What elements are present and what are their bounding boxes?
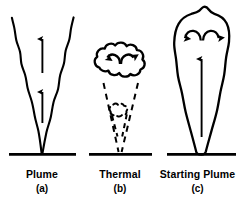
caption-starting-plume-title: Starting Plume — [160, 168, 236, 181]
thermal-cone-right — [122, 83, 138, 152]
thermal-inner-ghost-stem-right — [122, 114, 127, 136]
panel-plume — [9, 17, 76, 154]
caption-plume-title: Plume — [26, 168, 58, 181]
caption-starting-plume: Starting Plume (c) — [156, 168, 239, 195]
caption-thermal-sublabel: (b) — [114, 182, 127, 195]
caption-plume-sublabel: (a) — [36, 182, 48, 195]
thermal-inner-ghost-head — [109, 104, 127, 117]
panel-starting-plume — [167, 7, 236, 155]
plume-diagram-figure: Plume (a) Thermal (b) Starting Plume (c) — [0, 0, 239, 206]
caption-row: Plume (a) Thermal (b) Starting Plume (c) — [0, 168, 239, 195]
caption-thermal: Thermal (b) — [84, 168, 156, 195]
thermal-cone-left — [104, 83, 119, 152]
panel-thermal — [89, 43, 152, 155]
caption-plume: Plume (a) — [0, 168, 84, 195]
plume-outline-right — [43, 17, 74, 152]
caption-starting-plume-sublabel: (c) — [191, 182, 203, 195]
plume-outline-left — [12, 18, 42, 153]
caption-thermal-title: Thermal — [99, 168, 141, 181]
